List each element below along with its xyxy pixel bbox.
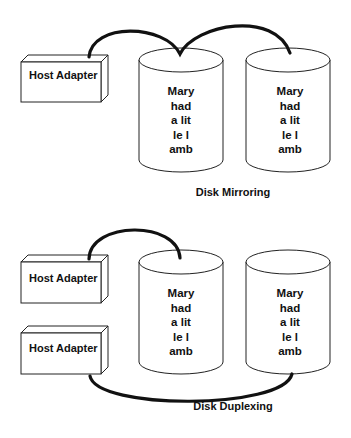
disk-text-line: a lit [171, 114, 191, 126]
cable [90, 374, 292, 401]
disk-cylinder: Mary had a lit le l amb [246, 48, 330, 172]
disk-text-line: amb [169, 143, 193, 155]
caption-disk-mirroring: Disk Mirroring [196, 186, 271, 198]
disk-text-line: Mary [277, 287, 304, 299]
disk-text-line: le l [173, 129, 189, 141]
mirroring-section: Host Adapter Mary had a lit le l amb Mar… [21, 26, 330, 198]
host-adapter-box: Host Adapter [21, 255, 108, 303]
disk-text-line: had [280, 100, 300, 112]
disk-text-line: le l [282, 331, 298, 343]
disk-cylinder: Mary had a lit le l amb [139, 250, 223, 374]
host-adapter-label: Host Adapter [29, 69, 98, 81]
disk-text-line: amb [278, 143, 302, 155]
disk-text-line: a lit [280, 114, 300, 126]
disk-text-line: Mary [168, 287, 195, 299]
disk-text-line: had [280, 302, 300, 314]
host-adapter-box: Host Adapter [21, 326, 108, 374]
host-adapter-label: Host Adapter [29, 342, 98, 354]
duplexing-section: Host Adapter Host Adapter Mary had a lit… [21, 230, 330, 412]
raid-diagram: Host Adapter Mary had a lit le l amb Mar… [0, 0, 351, 438]
disk-text-line: le l [173, 331, 189, 343]
disk-text-line: had [171, 302, 191, 314]
disk-text-line: Mary [168, 85, 195, 97]
disk-text-line: had [171, 100, 191, 112]
disk-text-line: le l [282, 129, 298, 141]
disk-text-line: Mary [277, 85, 304, 97]
host-adapter-box: Host Adapter [21, 55, 108, 102]
disk-text-line: a lit [280, 316, 300, 328]
disk-text-line: a lit [171, 316, 191, 328]
disk-cylinder: Mary had a lit le l amb [139, 48, 223, 172]
disk-text-line: amb [278, 345, 302, 357]
disk-cylinder: Mary had a lit le l amb [246, 250, 330, 374]
caption-disk-duplexing: Disk Duplexing [193, 400, 272, 412]
host-adapter-label: Host Adapter [29, 272, 98, 284]
disk-text-line: amb [169, 345, 193, 357]
